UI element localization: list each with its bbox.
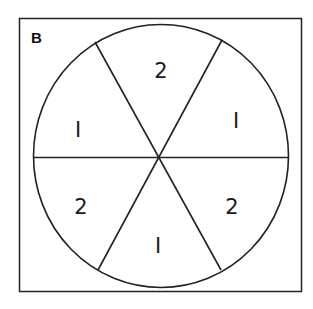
section-lower-left-value: 2 [74, 195, 87, 219]
spinner-diagram: B 2 I 2 I 2 I [0, 0, 313, 309]
figure-label: B [31, 29, 42, 46]
section-upper-right-value: I [233, 109, 239, 133]
section-bottom-value: I [155, 234, 161, 258]
section-upper-left-value: I [75, 118, 81, 142]
section-lower-right-value: 2 [225, 195, 238, 219]
section-top-value: 2 [154, 59, 167, 83]
